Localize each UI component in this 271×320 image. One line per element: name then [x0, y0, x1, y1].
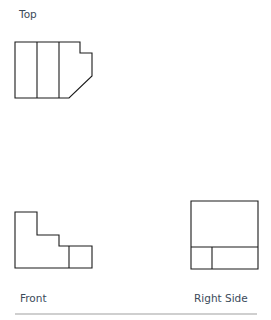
top-view: [15, 42, 92, 98]
front-view-label: Front: [20, 293, 47, 304]
right-side-view-label: Right Side: [194, 293, 248, 304]
top-view-outline: [15, 42, 92, 98]
orthographic-drawing: [0, 0, 271, 320]
front-view-outline: [15, 212, 92, 268]
bottom-divider: [15, 313, 257, 315]
front-view: [15, 212, 92, 268]
right-side-view: [191, 201, 258, 269]
right-side-view-outline: [191, 201, 258, 269]
